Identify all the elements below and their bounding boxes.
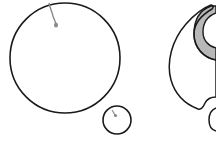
diagram-canvas <box>0 0 216 141</box>
small-cell-dot <box>114 114 117 117</box>
bud-cell <box>209 108 216 131</box>
engulfing-cell <box>169 5 216 109</box>
small-cell <box>103 106 131 134</box>
right-panel <box>169 5 216 131</box>
large-cell-dot <box>54 22 58 27</box>
large-cell-attachment <box>49 3 56 24</box>
large-cell <box>10 3 120 113</box>
left-panel <box>10 3 131 134</box>
